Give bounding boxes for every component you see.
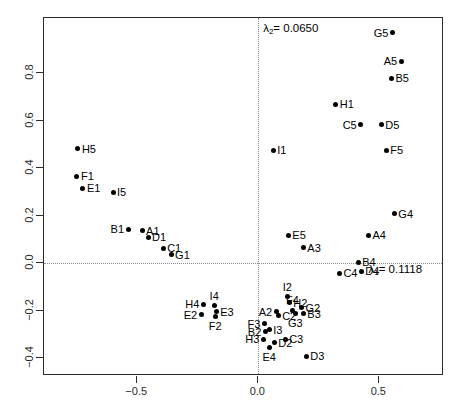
data-point-i1 — [271, 148, 276, 153]
data-point-c4 — [337, 271, 342, 276]
data-point-f1 — [74, 174, 79, 179]
data-point-label-b5: B5 — [395, 73, 408, 84]
data-point-i4 — [212, 303, 217, 308]
data-point-label-a4: A4 — [372, 230, 385, 241]
y-tick-label: 0.6 — [20, 111, 38, 129]
data-point-label-e4: E4 — [262, 352, 275, 363]
data-point-d3 — [304, 354, 309, 359]
y-tick-label: 0.8 — [20, 63, 38, 81]
y-tick-label: −0.4 — [20, 348, 38, 366]
annotation-lambda2: λ2= 0.0650 — [263, 22, 318, 34]
x-tick-mark — [136, 376, 137, 383]
data-point-c3 — [283, 337, 288, 342]
data-point-g3 — [293, 311, 298, 316]
data-point-label-e1: E1 — [87, 183, 100, 194]
data-point-e1 — [80, 186, 85, 191]
data-point-label-d3: D3 — [310, 351, 324, 362]
data-point-label-e3: E3 — [220, 306, 233, 317]
data-point-label-f2: F2 — [209, 321, 222, 332]
scatter-plot-figure: H5F1E1I5B1A1D1C1G1G5A5B5H1C5D5F5I1E5A3A4… — [0, 0, 457, 411]
data-point-c5 — [358, 122, 363, 127]
data-point-label-h1: H1 — [340, 99, 354, 110]
data-point-label-c3: C3 — [289, 334, 303, 345]
data-point-label-b3: B3 — [307, 308, 320, 319]
data-point-label-i3: I3 — [273, 324, 282, 335]
data-point-d5 — [379, 122, 384, 127]
data-point-h1 — [333, 102, 338, 107]
data-point-label-c5: C5 — [343, 119, 357, 130]
plot-panel: H5F1E1I5B1A1D1C1G1G5A5B5H1C5D5F5I1E5A3A4… — [43, 17, 443, 375]
data-point-h5 — [75, 146, 80, 151]
data-point-label-a2: A2 — [259, 306, 272, 317]
y-tick-label: 0.4 — [20, 158, 38, 176]
annotation-lambda1: λ1= 0.1118 — [368, 263, 422, 275]
annotation-value: = 0.0650 — [273, 22, 318, 34]
data-point-label-e2: E2 — [184, 309, 197, 320]
data-point-b5 — [389, 76, 394, 81]
data-point-e5 — [286, 233, 291, 238]
data-point-g2 — [299, 305, 304, 310]
data-point-label-h3: H3 — [245, 334, 259, 345]
data-point-i5 — [111, 190, 116, 195]
data-point-label-a5: A5 — [384, 56, 397, 67]
y-tick-label-text: −0.2 — [23, 299, 35, 321]
data-point-c2 — [276, 313, 281, 318]
data-point-label-i4: I4 — [210, 291, 219, 302]
data-point-c1 — [161, 246, 166, 251]
annotation-subscript: 1 — [374, 268, 378, 277]
data-point-e4 — [267, 345, 272, 350]
data-point-h3 — [261, 337, 266, 342]
data-point-label-a3: A3 — [307, 242, 320, 253]
data-point-label-g5: G5 — [374, 27, 389, 38]
data-point-label-i5: I5 — [117, 187, 126, 198]
data-point-g5 — [390, 30, 395, 35]
data-point-a3 — [301, 245, 306, 250]
data-point-label-b1: B1 — [111, 224, 124, 235]
data-point-label-c4: C4 — [343, 268, 357, 279]
y-tick-label-text: 0.0 — [23, 255, 35, 270]
data-point-g1 — [169, 252, 174, 257]
data-point-d1 — [146, 235, 151, 240]
data-point-label-i1: I1 — [277, 145, 286, 156]
x-tick-label: 0.0 — [250, 385, 265, 397]
annotation-symbol: λ — [263, 22, 269, 34]
data-point-label-e5: E5 — [292, 230, 305, 241]
data-point-g4 — [392, 211, 397, 216]
y-tick-label-text: 0.6 — [23, 112, 35, 127]
data-point-label-f4: F4 — [286, 295, 299, 306]
data-point-label-f5: F5 — [390, 145, 403, 156]
data-point-label-f1: F1 — [81, 171, 94, 182]
x-tick-mark — [257, 376, 258, 383]
data-point-h4 — [201, 302, 206, 307]
annotation-subscript: 2 — [269, 27, 273, 36]
x-tick-label: 0.5 — [371, 385, 386, 397]
data-point-label-g3: G3 — [288, 318, 303, 329]
y-tick-label: 0.2 — [20, 206, 38, 224]
y-tick-label-text: −0.4 — [23, 346, 35, 368]
y-tick-label: 0.0 — [20, 253, 38, 271]
x-tick-mark — [378, 376, 379, 383]
x-tick-label: −0.5 — [125, 385, 147, 397]
data-point-f2 — [213, 314, 218, 319]
data-point-b1 — [126, 227, 131, 232]
y-tick-label-text: 0.8 — [23, 65, 35, 80]
data-point-d2 — [272, 340, 277, 345]
data-point-b4 — [356, 260, 361, 265]
data-point-label-h5: H5 — [82, 143, 96, 154]
data-point-a5 — [399, 59, 404, 64]
y-tick-label-text: 0.2 — [23, 207, 35, 222]
data-point-label-d5: D5 — [385, 119, 399, 130]
data-point-label-g1: G1 — [175, 249, 190, 260]
annotation-value: = 0.1118 — [379, 263, 422, 275]
data-point-label-g4: G4 — [398, 208, 413, 219]
data-point-label-i2: I2 — [283, 282, 292, 293]
data-point-b2 — [263, 329, 268, 334]
data-point-label-d1: D1 — [152, 232, 166, 243]
data-point-f5 — [384, 148, 389, 153]
y-tick-label-text: 0.4 — [23, 160, 35, 175]
data-point-a1 — [140, 228, 145, 233]
data-point-e2 — [199, 312, 204, 317]
y-tick-label: −0.2 — [20, 301, 38, 319]
data-point-a4 — [366, 233, 371, 238]
data-point-f3 — [262, 321, 267, 326]
